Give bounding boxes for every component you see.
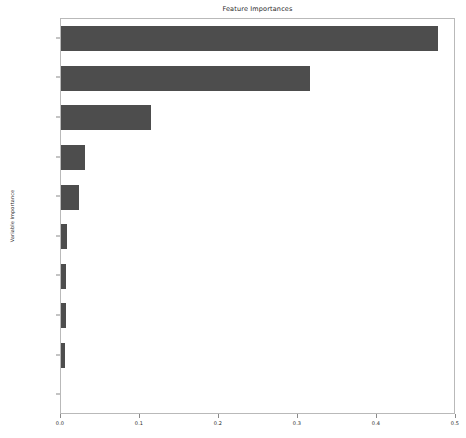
x-tick-label-0.4: 0.4 xyxy=(372,420,380,426)
y-axis-label-wrapper: Variable Importance xyxy=(10,0,11,438)
x-tick-mark xyxy=(297,414,298,418)
y-tick-mark xyxy=(56,394,60,395)
x-tick-label-0.0: 0.0 xyxy=(56,420,64,426)
x-tick-label-0.1: 0.1 xyxy=(135,420,143,426)
y-tick-mark xyxy=(56,275,60,276)
y-tick-mark xyxy=(56,196,60,197)
y-tick-mark xyxy=(56,315,60,316)
x-tick-label-0.5: 0.5 xyxy=(451,420,459,426)
x-axis-tick-labels: 0.00.10.20.30.40.5 xyxy=(0,414,466,438)
x-tick-mark xyxy=(376,414,377,418)
x-tick-mark xyxy=(139,414,140,418)
figure-canvas: Feature Importances agenumofproductsisac… xyxy=(0,0,466,438)
x-tick-mark xyxy=(60,414,61,418)
y-axis-label: Variable Importance xyxy=(9,190,15,242)
y-tick-mark xyxy=(56,156,60,157)
y-tick-mark xyxy=(56,37,60,38)
y-tick-mark xyxy=(56,235,60,236)
y-tick-mark xyxy=(56,77,60,78)
x-tick-mark xyxy=(455,414,456,418)
y-axis-tick-labels: agenumofproductsisactivemembergeographyb… xyxy=(0,18,466,414)
y-tick-mark xyxy=(56,354,60,355)
x-tick-mark xyxy=(218,414,219,418)
y-tick-mark xyxy=(56,117,60,118)
x-tick-label-0.3: 0.3 xyxy=(293,420,301,426)
chart-title: Feature Importances xyxy=(60,5,455,13)
x-tick-label-0.2: 0.2 xyxy=(214,420,222,426)
